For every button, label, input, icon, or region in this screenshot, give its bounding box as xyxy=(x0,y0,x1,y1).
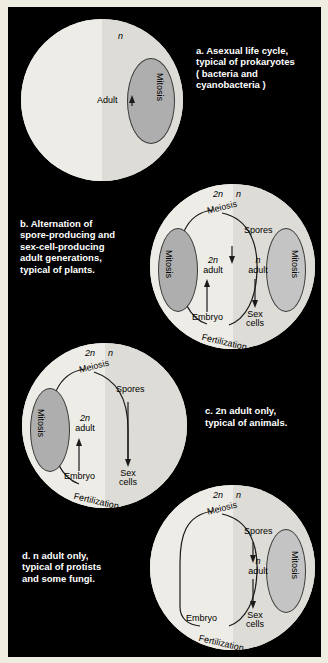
panel-b-ploidy-n: n xyxy=(236,189,241,199)
panel-c-spores-label: Spores xyxy=(116,384,145,394)
panel-b-caption: b. Alternation of spore-producing and se… xyxy=(20,218,148,275)
panel-d-spores-label: Spores xyxy=(244,526,273,536)
panel-b-adult-2n-word: adult xyxy=(196,265,230,275)
panel-d-caption: d. n adult only, typical of protists and… xyxy=(22,550,142,584)
panel-d-adult-n-word: adult xyxy=(241,566,275,576)
panel-d-mitosis-right-label: Mitosis xyxy=(290,551,300,579)
panel-a-circle-light-half xyxy=(21,19,102,181)
panel-c-embryo-label: Embryo xyxy=(64,471,95,481)
panel-a-mitosis-ellipse xyxy=(127,58,175,144)
panel-b-ploidy-2n: 2n xyxy=(213,189,223,199)
panel-a-adult-label: Adult xyxy=(97,95,118,105)
panel-b-adult-2n-ploidy: 2n xyxy=(202,255,224,265)
panel-b-adult-n-ploidy: n xyxy=(248,255,268,265)
panel-d-embryo-label: Embryo xyxy=(186,613,217,623)
panel-a-ploidy-n: n xyxy=(118,31,123,41)
life-cycle-figure: n Adult Mitosis a. Asexual life cycle, t… xyxy=(8,7,321,657)
panel-c-adult-2n-word: adult xyxy=(68,423,102,433)
panel-d-sex-cells-line2: cells xyxy=(239,619,271,629)
panel-b-adult-n-word: adult xyxy=(241,265,275,275)
panel-d-ploidy-2n: 2n xyxy=(213,490,223,500)
panel-b-embryo-label: Embryo xyxy=(192,312,223,322)
panel-b-sex-cells-line2: cells xyxy=(239,318,271,328)
panel-c-sex-cells-line2: cells xyxy=(112,477,144,487)
panel-d-ploidy-n: n xyxy=(236,490,241,500)
panel-c-caption: c. 2n adult only, typical of animals. xyxy=(205,394,317,428)
panel-b-mitosis-right-label: Mitosis xyxy=(290,250,300,278)
panel-b-mitosis-left-label: Mitosis xyxy=(164,250,174,278)
panel-c-ploidy-2n: 2n xyxy=(85,348,95,358)
panel-b-spores-label: Spores xyxy=(244,225,273,235)
panel-c-mitosis-left-label: Mitosis xyxy=(36,409,46,437)
panel-c-adult-2n-ploidy: 2n xyxy=(74,413,96,423)
panel-c-ploidy-n: n xyxy=(108,348,113,358)
panel-d-adult-n-ploidy: n xyxy=(248,556,268,566)
panel-a-caption: a. Asexual life cycle, typical of prokar… xyxy=(196,45,316,91)
panel-a-mitosis-label: Mitosis xyxy=(155,73,165,101)
panel-c-caption-text: c. 2n adult only, typical of animals. xyxy=(205,405,287,427)
